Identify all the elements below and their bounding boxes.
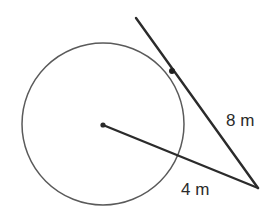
secant-length-label: 4 m bbox=[181, 180, 209, 199]
tangent-length-label: 8 m bbox=[226, 111, 254, 130]
tangent-point-marker bbox=[169, 68, 175, 74]
circle-center-dot bbox=[100, 122, 105, 127]
geometry-diagram: 8 m 4 m bbox=[0, 0, 271, 208]
